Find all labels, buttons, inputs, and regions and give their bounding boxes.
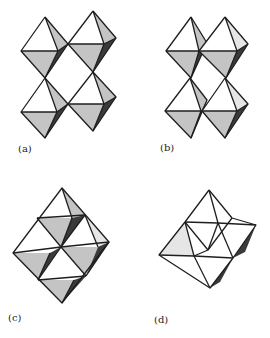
panel-b-label: (b) (160, 142, 174, 153)
octahedron (202, 78, 248, 138)
octahedron (166, 17, 207, 78)
panel-c-label: (c) (8, 312, 21, 323)
octahedron (21, 78, 68, 138)
panel-d-label: (d) (154, 314, 168, 325)
panel-c-diagram (13, 188, 109, 303)
octahedron (21, 17, 68, 78)
panel-a-label: (a) (18, 143, 32, 154)
octahedra-figure (0, 0, 270, 338)
octahedron (68, 11, 116, 72)
panel-d-diagram (159, 190, 256, 288)
octahedron (199, 17, 248, 78)
octahedron (68, 72, 116, 131)
panel-b-diagram (165, 17, 248, 138)
panel-a-diagram (21, 11, 116, 138)
octahedron (165, 78, 207, 138)
